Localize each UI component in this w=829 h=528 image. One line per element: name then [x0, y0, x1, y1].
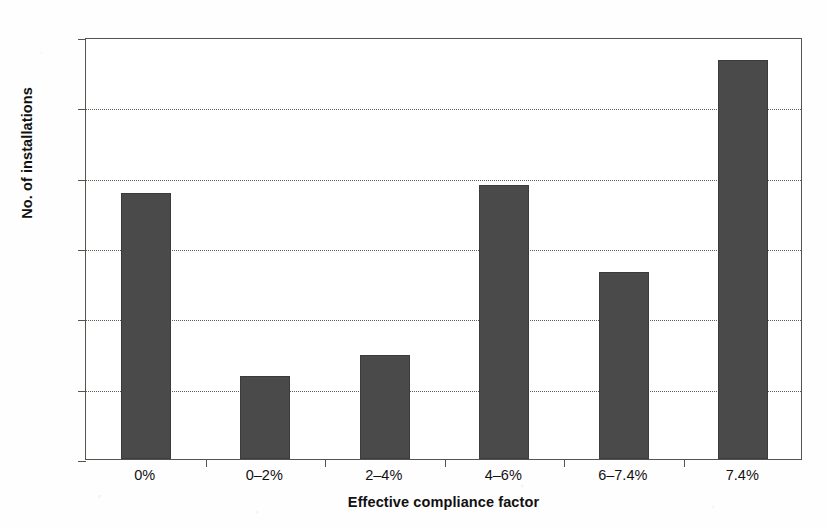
- x-axis-tick: [325, 459, 326, 467]
- x-axis-tick: [445, 459, 446, 467]
- bar: [718, 60, 768, 459]
- gridline: [86, 180, 801, 181]
- bar: [121, 193, 171, 459]
- x-axis-tick-label: 6–7.4%: [563, 468, 683, 483]
- bar: [240, 376, 290, 459]
- gridline: [86, 320, 801, 321]
- y-axis-tick: [78, 180, 86, 181]
- x-axis-tick: [206, 459, 207, 467]
- x-axis-tick: [684, 459, 685, 467]
- bar-chart: No. of installations 0100200300400500600…: [0, 0, 829, 528]
- bar: [479, 185, 529, 459]
- x-axis-tick-label: 7.4%: [682, 468, 802, 483]
- gridline: [86, 250, 801, 251]
- y-axis-tick: [78, 391, 86, 392]
- x-axis-tick-label: 4–6%: [443, 468, 563, 483]
- x-axis-tick-label: 0–2%: [204, 468, 324, 483]
- x-axis-tick-label: 0%: [85, 468, 205, 483]
- bar: [360, 355, 410, 459]
- x-axis-tick-label: 2–4%: [324, 468, 444, 483]
- gridline: [86, 109, 801, 110]
- y-axis-tick: [78, 250, 86, 251]
- y-axis-title: No. of installations: [13, 38, 41, 268]
- gridline: [86, 391, 801, 392]
- bar: [599, 272, 649, 459]
- y-axis-tick: [78, 320, 86, 321]
- plot-area: [85, 38, 802, 460]
- y-axis-tick: [78, 109, 86, 110]
- y-axis-tick: [78, 461, 86, 462]
- x-axis-title: Effective compliance factor: [85, 494, 802, 510]
- x-axis-tick: [564, 459, 565, 467]
- y-axis-tick: [78, 39, 86, 40]
